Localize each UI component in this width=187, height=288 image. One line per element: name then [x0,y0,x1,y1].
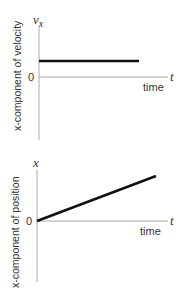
position-y-label: x-component of position [9,176,21,288]
position-graph: x t 0 time x-component of position [9,155,174,288]
velocity-t-symbol: t [170,69,174,84]
position-t-symbol: t [170,213,174,228]
position-zero-label: 0 [26,215,32,227]
position-time-label: time [140,225,161,237]
velocity-y-symbol: vx [33,12,44,29]
velocity-graph: vx t 0 time x-component of velocity [11,12,174,140]
diagram: vx t 0 time x-component of velocity x t … [0,0,187,288]
position-line [37,176,156,221]
velocity-y-label: x-component of velocity [11,20,23,131]
velocity-time-label: time [143,81,164,93]
position-y-symbol: x [32,155,39,170]
velocity-zero-label: 0 [28,71,34,83]
